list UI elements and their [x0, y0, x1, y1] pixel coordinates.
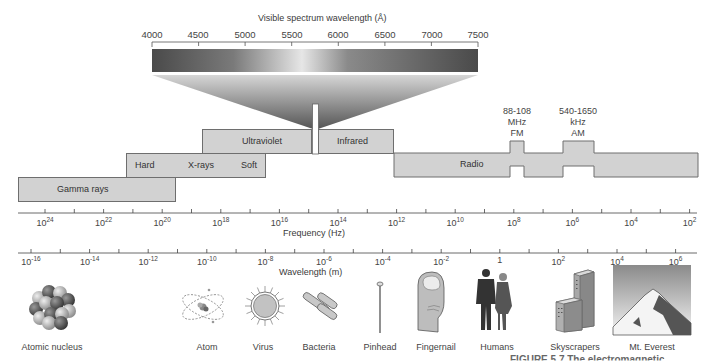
atomic-nucleus-icon: [29, 285, 76, 330]
object-label-virus: Virus: [253, 342, 273, 352]
am-range-label: 540-1650: [559, 106, 597, 116]
skyscrapers-icon: [556, 270, 594, 332]
wavelength-tick-label: 10-6: [316, 255, 332, 267]
wavelength-axis-label: Wavelength (m): [279, 267, 342, 277]
frequency-tick-label: 1012: [388, 216, 405, 228]
object-label-bacteria: Bacteria: [302, 342, 335, 352]
frequency-tick-label: 1020: [154, 216, 171, 228]
frequency-tick-label: 1016: [271, 216, 288, 228]
wavelength-tick-label: 10-4: [375, 255, 391, 267]
wavelength-tick-label: 104: [610, 255, 624, 267]
virus-icon: [245, 286, 285, 326]
fm-name-label: FM: [511, 128, 524, 138]
wavelength-tick-label: 10-16: [21, 255, 40, 267]
band-gamma-label: Gamma rays: [57, 184, 109, 194]
object-label-pinhead: Pinhead: [363, 342, 396, 352]
figure-caption-fragment: FIGURE 5.7 The electromagnetic: [510, 354, 665, 361]
band-infrared-label: Infrared: [337, 136, 368, 146]
visible-scale: [152, 42, 478, 47]
object-label-mt-everest: Mt. Everest: [629, 342, 675, 352]
object-label-skyscrapers: Skyscrapers: [550, 342, 600, 352]
frequency-tick-label: 104: [624, 216, 638, 228]
object-label-atom: Atom: [196, 342, 217, 352]
fm-unit-label: MHz: [508, 117, 527, 127]
wavelength-tick-label: 1: [497, 255, 502, 265]
frequency-tick-label: 106: [566, 216, 580, 228]
am-name-label: AM: [571, 128, 585, 138]
band-x-rays: Hard X-rays Soft: [126, 153, 266, 178]
object-label-humans: Humans: [480, 342, 514, 352]
band-radio-label: Radio: [460, 159, 484, 169]
bacteria-icon: [302, 291, 338, 320]
humans-icon: [476, 269, 512, 330]
wavelength-tick-label: 10-14: [80, 255, 99, 267]
band-ultraviolet-label: Ultraviolet: [242, 136, 282, 146]
frequency-axis-label: Frequency (Hz): [283, 228, 345, 238]
band-xray-label: X-rays: [188, 160, 214, 170]
atom-icon: [179, 289, 226, 325]
mountain-icon: [613, 265, 691, 335]
fingernail-icon: [418, 272, 444, 332]
frequency-tick-label: 102: [683, 216, 697, 228]
wavelength-tick-label: 10-2: [433, 255, 449, 267]
fm-range-label: 88-108: [503, 106, 531, 116]
frequency-tick-label: 1024: [36, 216, 53, 228]
band-infrared: Infrared: [318, 129, 394, 154]
object-label-atomic-nucleus: Atomic nucleus: [21, 342, 82, 352]
am-unit-label: kHz: [570, 117, 586, 127]
band-xray-soft-label: Soft: [241, 160, 257, 170]
wavelength-tick-label: 10-12: [138, 255, 157, 267]
frequency-tick-label: 108: [507, 216, 521, 228]
object-label-fingernail: Fingernail: [416, 342, 456, 352]
frequency-tick-label: 1014: [329, 216, 346, 228]
wavelength-tick-label: 10-8: [257, 255, 273, 267]
pinhead-icon: [377, 282, 383, 333]
wavelength-tick-label: 10-10: [197, 255, 216, 267]
band-xray-hard-label: Hard: [135, 160, 155, 170]
frequency-tick-label: 1022: [95, 216, 112, 228]
wavelength-tick-label: 102: [552, 255, 566, 267]
frequency-tick-label: 1010: [447, 216, 464, 228]
wavelength-tick-label: 106: [669, 255, 683, 267]
visible-spectrum-bar: [152, 49, 478, 72]
band-gamma-rays: Gamma rays: [18, 177, 176, 202]
band-ultraviolet: Ultraviolet: [202, 129, 312, 154]
frequency-tick-label: 1018: [212, 216, 229, 228]
